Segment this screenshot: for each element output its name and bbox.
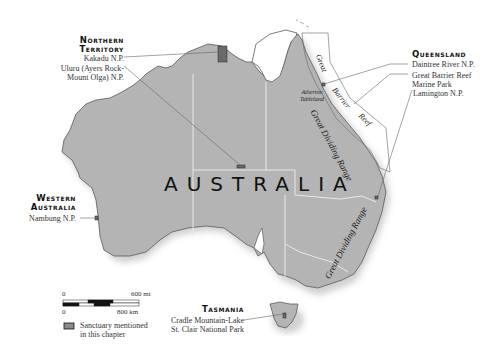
kakadu-sanctuary: [218, 46, 227, 62]
queensland-title: Queensland: [412, 50, 466, 59]
legend-line1: Sanctuary mentioned: [80, 321, 148, 330]
scale-km-start: 0: [62, 308, 66, 316]
nambung-label: Nambung N.P.: [0, 214, 76, 223]
western-australia-title-line2: Australia: [0, 203, 76, 212]
torres-islands: [296, 20, 309, 27]
northern-territory-title-line2: Territory: [40, 45, 124, 54]
atherton-tableland-label: Atherton Tableland: [300, 89, 324, 103]
uluru-sanctuary: [237, 165, 245, 168]
legend-swatch: [64, 323, 74, 329]
atherton-line2: Tableland: [300, 96, 324, 103]
tasmania-title: Tasmania: [180, 305, 244, 314]
scale-mi-start: 0: [62, 290, 66, 298]
legend-text: Sanctuary mentioned in this chapter: [80, 321, 148, 339]
atherton-line1: Atherton: [300, 89, 324, 96]
great-barrier-reef-label-line1: Great Barrier Reef: [412, 71, 472, 80]
scale-mi-end: 600 mi: [131, 290, 151, 298]
nambung-sanctuary: [95, 216, 98, 220]
scale-km-end: 800 km: [117, 308, 138, 316]
scale-bar: [63, 300, 139, 306]
daintree-sanctuary: [322, 83, 325, 86]
legend-line2: in this chapter: [80, 330, 148, 339]
northern-territory-title: Northern Territory: [40, 36, 124, 54]
uluru-label-line2: Mount Olga) N.P.: [40, 73, 124, 82]
daintree-label: Daintree River N.P.: [412, 60, 475, 69]
western-australia-title: Western Australia: [0, 194, 76, 212]
country-label: AUSTRALIA: [164, 172, 356, 196]
cradle-label-line1: Cradle Mountain-Lake: [150, 316, 244, 325]
lamington-sanctuary: [375, 196, 378, 199]
uluru-label-line1: Uluru (Ayers Rock-: [40, 64, 124, 73]
great-barrier-reef-label-line2: Marine Park: [412, 80, 452, 89]
cradle-label-line2: St. Clair National Park: [150, 325, 244, 334]
kakadu-label: Kakadu N.P.: [40, 54, 124, 63]
cradle-sanctuary: [283, 313, 286, 318]
lamington-label: Lamington N.P.: [413, 89, 463, 98]
